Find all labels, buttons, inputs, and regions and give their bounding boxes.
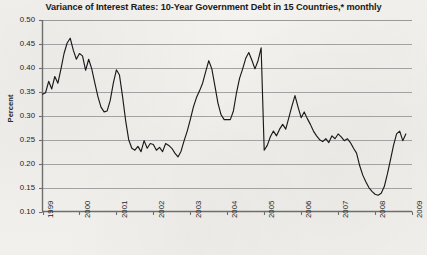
y-tick-label: 0.45 <box>5 39 35 48</box>
x-tick-label: 2002 <box>157 200 166 217</box>
gridline-group <box>43 21 413 189</box>
y-tick-label: 0.15 <box>5 183 35 192</box>
y-tick-label: 0.25 <box>5 135 35 144</box>
x-tick-label: 2003 <box>194 200 203 217</box>
chart-page: Variance of Interest Rates: 10-Year Gove… <box>0 0 427 255</box>
x-tick-label: 2001 <box>120 200 129 217</box>
line-chart-plot <box>0 0 427 255</box>
x-tick-label: 1999 <box>46 200 55 217</box>
x-tick-label: 2006 <box>304 200 313 217</box>
y-tick-label: 0.20 <box>5 159 35 168</box>
y-tick-label: 0.10 <box>5 207 35 216</box>
y-tick-label: 0.30 <box>5 111 35 120</box>
y-tick-label: 0.50 <box>5 15 35 24</box>
x-tick-label: 2004 <box>230 200 239 217</box>
y-tick-label: 0.40 <box>5 63 35 72</box>
x-tick-label: 2009 <box>415 200 424 217</box>
x-tick-label: 2005 <box>267 200 276 217</box>
y-tick-label: 0.35 <box>5 87 35 96</box>
x-tick-label: 2007 <box>341 200 350 217</box>
x-tick-label: 2000 <box>83 200 92 217</box>
x-tick-label: 2008 <box>378 200 387 217</box>
